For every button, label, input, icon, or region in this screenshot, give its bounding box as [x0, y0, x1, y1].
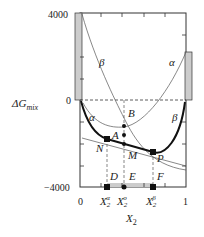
point-D [104, 184, 110, 190]
label-alpha-upper: α [169, 56, 175, 68]
point-F [150, 184, 156, 190]
label-D: D [109, 170, 118, 182]
x-marker-o: X2o [116, 194, 128, 209]
label-B: B [128, 107, 135, 119]
point-B [122, 124, 126, 128]
x-axis-label: X2 [125, 212, 137, 227]
y-tick-4000: 4000 [48, 9, 68, 20]
y-tick-neg4000: −4000 [44, 182, 70, 193]
y-axis-label: ΔGmix [11, 97, 38, 112]
label-alpha-lower: α [89, 111, 95, 123]
point-A [122, 133, 126, 137]
point-E [122, 185, 127, 190]
label-P: P [156, 152, 164, 164]
bottom-gray-bar [107, 183, 153, 187]
label-beta-lower: β [171, 111, 178, 123]
right-gray-bar [185, 52, 192, 100]
label-beta-upper: β [98, 56, 105, 68]
x-marker-alpha: X2α [99, 194, 111, 209]
x-tick-0: 0 [78, 196, 83, 207]
label-A: A [111, 129, 119, 141]
label-M: M [127, 149, 138, 161]
y-tick-0: 0 [66, 95, 71, 106]
free-energy-diagram: 4000 0 −4000 0 1 ΔGmix X2 X2α X2o X2β β … [0, 0, 204, 237]
point-N [104, 136, 110, 142]
label-N: N [95, 142, 104, 154]
point-P [150, 149, 156, 155]
label-F: F [156, 170, 164, 182]
point-M [122, 142, 126, 146]
x-tick-1: 1 [183, 196, 188, 207]
label-E: E [128, 170, 136, 182]
x-marker-beta: X2β [145, 194, 157, 209]
left-gray-bar [75, 13, 82, 100]
